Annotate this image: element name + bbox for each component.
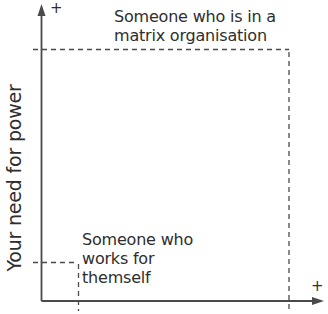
self-label-line-3: themself [82,268,193,287]
works-for-themself-label: Someone who works for themself [82,230,193,287]
y-axis-label: Your need for power [3,84,25,271]
x-axis-arrow-icon [312,297,324,305]
y-axis-plus-marker: + [50,1,63,16]
x-axis-plus-marker: + [311,279,324,294]
matrix-label-line-1: Someone who is in a [114,7,276,26]
self-label-line-2: works for [82,249,193,268]
matrix-organisation-label: Someone who is in a matrix organisation [114,7,276,45]
self-label-line-1: Someone who [82,230,193,249]
power-need-diagram: + + Your need for power Someone who is i… [0,0,328,314]
matrix-label-line-2: matrix organisation [114,26,276,45]
y-axis-arrow-icon [38,4,46,16]
